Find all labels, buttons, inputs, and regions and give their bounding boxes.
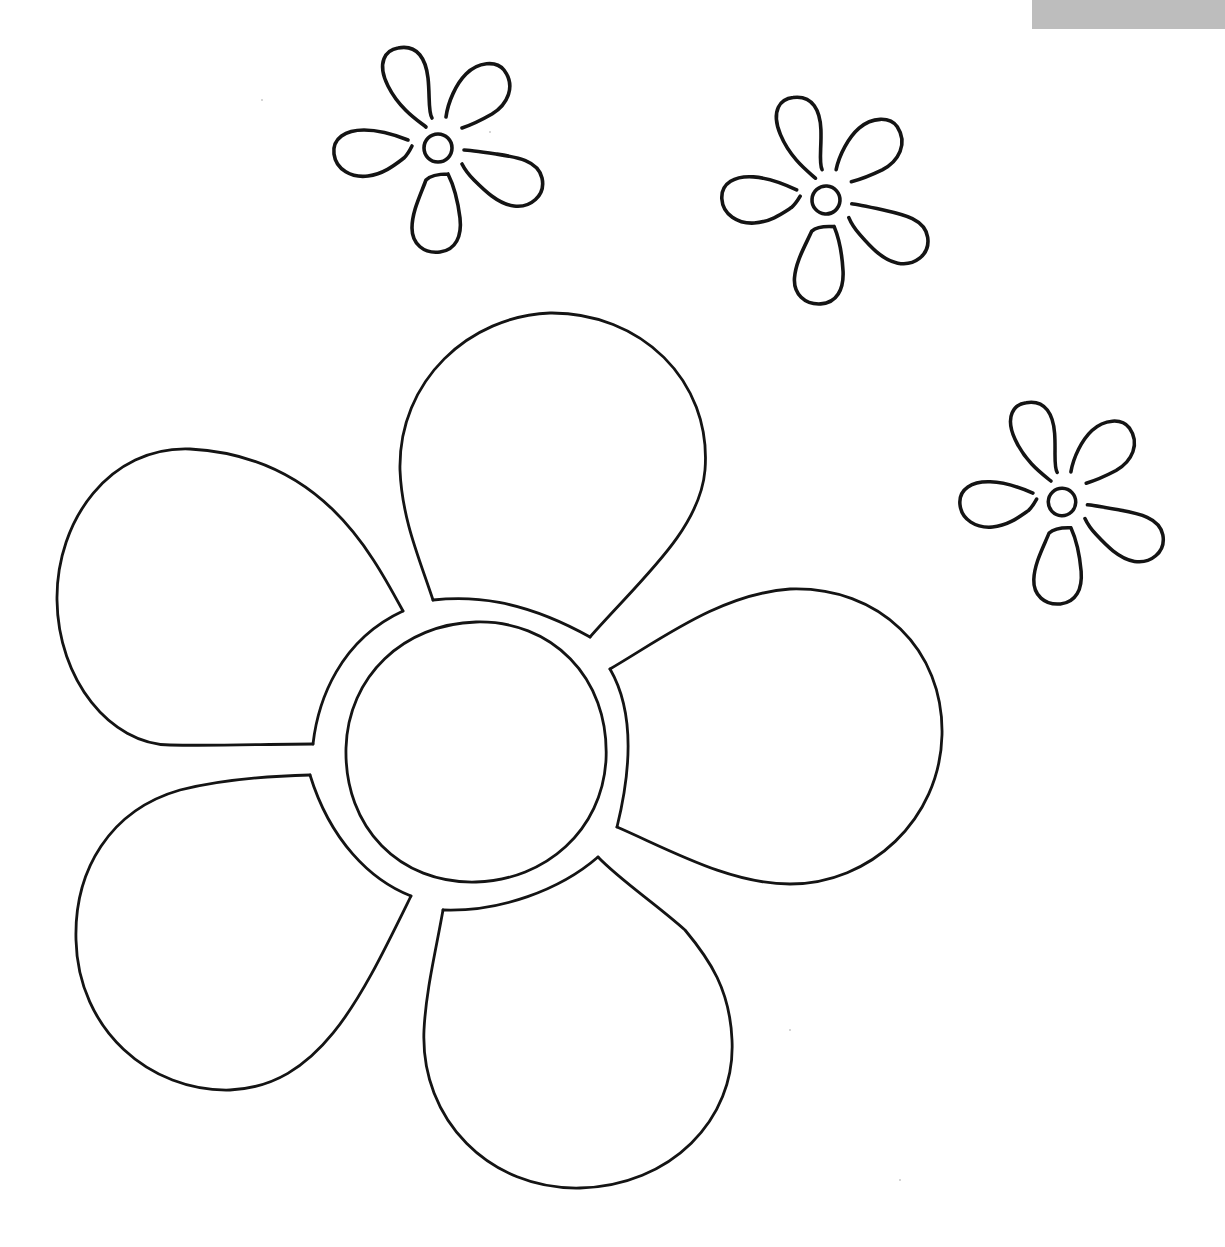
coloring-page: Flower coloring page bbox=[0, 0, 1225, 1247]
small-flower-1 bbox=[334, 47, 543, 252]
small-flower-2 bbox=[715, 92, 938, 311]
flower-drawing bbox=[0, 0, 1225, 1247]
large-flower bbox=[57, 313, 942, 1188]
large-flower-center-circle bbox=[346, 622, 606, 882]
scan-speck bbox=[489, 131, 491, 133]
large-petal-top bbox=[400, 313, 706, 637]
scan-speck bbox=[899, 1179, 901, 1181]
large-petal-bottom-left bbox=[76, 775, 411, 1090]
large-petal-bottom bbox=[424, 857, 732, 1188]
small-flower-3 bbox=[956, 400, 1168, 608]
scan-speck bbox=[261, 99, 263, 101]
scan-speck bbox=[789, 1029, 791, 1031]
large-petal-right bbox=[610, 589, 942, 884]
large-petal-left bbox=[57, 449, 403, 745]
